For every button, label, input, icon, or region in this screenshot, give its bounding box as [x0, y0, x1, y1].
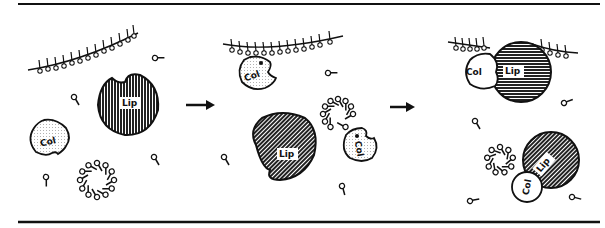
colipase-interface-complex: Col: [466, 54, 498, 89]
lipid-interface: [223, 31, 343, 55]
diagram-canvas: Lip Col: [0, 0, 605, 228]
lipase-label: Lip: [505, 66, 521, 76]
arrow-2: [390, 102, 415, 112]
lipase: Lip: [253, 113, 316, 180]
lipid-interface: [28, 25, 138, 73]
lipase-label: Lip: [279, 149, 295, 159]
colipase-on-micelle: Col: [344, 128, 377, 161]
micelle-bound: [484, 144, 516, 176]
colipase-at-interface: Col: [239, 57, 276, 90]
panel-2: Col Lip Col: [221, 31, 376, 195]
colipase: Col: [30, 120, 69, 155]
micelle-bound: [320, 96, 355, 131]
colipase-micelle-complex: Col: [512, 172, 542, 202]
panel-3: Lip Col Lip Col: [448, 37, 581, 206]
panel-1: Lip Col: [28, 25, 164, 200]
colipase-label: Col: [466, 67, 482, 77]
lipase: Lip: [98, 74, 158, 135]
lipase-label: Lip: [122, 98, 138, 108]
micelle: [77, 160, 116, 199]
arrow-1: [186, 100, 215, 110]
lipase-interface-complex: Lip: [491, 42, 551, 102]
